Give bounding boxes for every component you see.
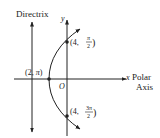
axis-label: Axis xyxy=(136,82,154,92)
lower-point-label: (4, 3π 2 ) xyxy=(70,105,96,119)
origin-label: O xyxy=(59,82,65,91)
vertex-label: (2, π) xyxy=(25,68,43,77)
polar-label: Polar xyxy=(132,72,151,82)
svg-text:2: 2 xyxy=(87,43,90,49)
point-lower xyxy=(65,114,69,118)
directrix-label: Directrix xyxy=(16,9,49,19)
svg-text:): ) xyxy=(93,107,96,119)
svg-text:(4,: (4, xyxy=(70,38,79,47)
upper-point-label: (4, π 2 ) xyxy=(70,35,95,49)
y-axis-label: y xyxy=(60,14,65,23)
svg-text:3π: 3π xyxy=(86,105,92,111)
vertex-point xyxy=(47,77,51,81)
svg-text:): ) xyxy=(92,37,95,49)
svg-text:2: 2 xyxy=(87,113,90,119)
x-axis-label: x xyxy=(125,73,130,82)
svg-text:(4,: (4, xyxy=(70,107,79,116)
point-upper xyxy=(65,40,69,44)
parabola-diagram: Directrix y x Polar Axis O (2, π) (4, π … xyxy=(0,0,160,138)
svg-text:π: π xyxy=(87,35,91,41)
